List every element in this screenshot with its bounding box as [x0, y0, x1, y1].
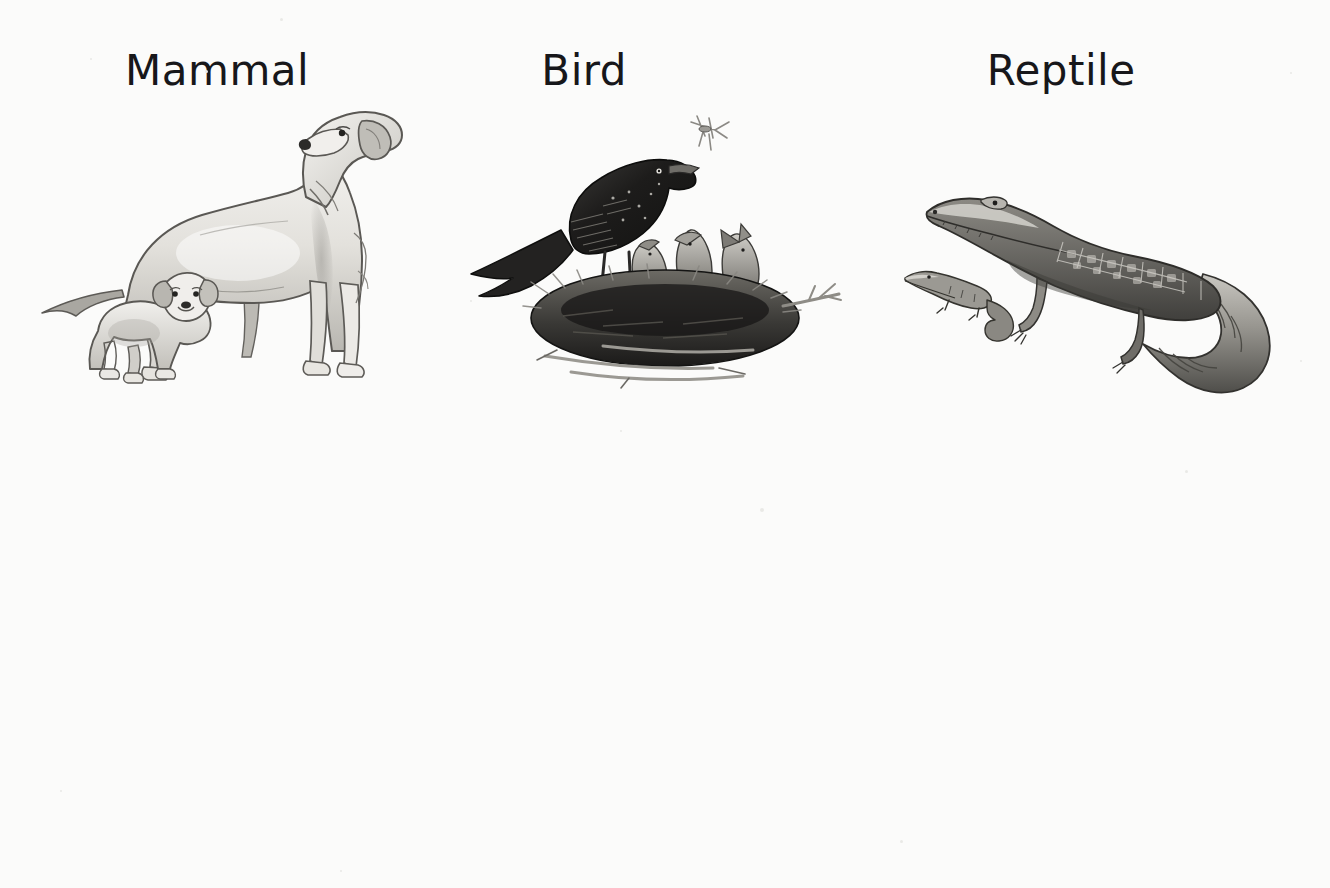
panel-fish: Fish [443, 444, 886, 888]
panel-label-bird: Bird [541, 50, 627, 92]
animal-groups-grid: Mammal [0, 0, 1330, 888]
illustration-bird-feeding-chicks [453, 88, 873, 408]
illustration-crocodile-with-hatchling [887, 150, 1307, 410]
panel-label-reptile: Reptile [987, 50, 1136, 92]
panel-mammal: Mammal [0, 0, 443, 444]
panel-amphibian: Amphibian [0, 444, 443, 888]
panel-insect: Insect [887, 444, 1330, 888]
panel-bird: Bird [443, 0, 886, 444]
illustration-dog-with-puppy [10, 85, 430, 405]
panel-reptile: Reptile [887, 0, 1330, 444]
nest [523, 264, 841, 388]
baby-crocodile [905, 272, 1013, 342]
insect-in-beak [691, 116, 729, 150]
adult-crocodile [887, 150, 1270, 393]
